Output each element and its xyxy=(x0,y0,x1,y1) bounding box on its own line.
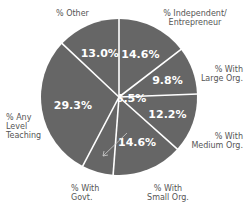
label-teaching: % Any Level Teaching xyxy=(6,113,46,140)
label-line: Small Org. xyxy=(138,193,198,202)
slice-value-label: 29.3% xyxy=(54,99,92,112)
slice-value-label: 12.2% xyxy=(148,108,186,121)
label-govt: % With Govt. xyxy=(71,184,111,202)
label-line: Level xyxy=(6,122,46,131)
label-line: Entrepreneur xyxy=(150,18,240,27)
label-small-org: % With Small Org. xyxy=(138,184,198,202)
label-line: % With xyxy=(71,184,111,193)
label-line: Large Org. xyxy=(195,74,243,83)
slice-value-label: 14.6% xyxy=(118,136,156,149)
label-line: % Independent/ xyxy=(150,9,240,18)
slice-value-label: 13.0% xyxy=(81,47,119,60)
label-line: % With xyxy=(138,184,198,193)
label-line: % Any xyxy=(6,113,46,122)
label-other: % Other xyxy=(56,9,96,18)
label-independent: % Independent/ Entrepreneur xyxy=(150,9,240,27)
slice-value-label: 14.6% xyxy=(121,48,159,61)
label-line: Medium Org. xyxy=(185,141,243,150)
label-line: % Other xyxy=(56,9,96,18)
label-line: Govt. xyxy=(71,193,111,202)
label-medium-org: % With Medium Org. xyxy=(185,132,243,150)
label-large-org: % With Large Org. xyxy=(195,65,243,83)
label-line: % With xyxy=(195,65,243,74)
slice-value-label: 9.8% xyxy=(152,74,183,87)
pie-chart: 14.6%9.8%12.2%14.6%6.5%29.3%13.0% xyxy=(0,0,251,215)
label-line: Teaching xyxy=(6,131,46,140)
label-line: % With xyxy=(185,132,243,141)
